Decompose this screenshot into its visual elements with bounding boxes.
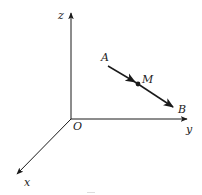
caption-fragment [85, 186, 97, 195]
y-axis-label: y [185, 123, 193, 136]
point-b-label: B [177, 103, 186, 116]
point-m-label: M [141, 73, 154, 86]
coordinate-diagram: z y x O A M B [0, 0, 202, 195]
origin-label: O [73, 120, 82, 133]
point-a-label: A [100, 51, 109, 64]
z-axis-label: z [57, 9, 64, 22]
x-axis-label: x [24, 176, 31, 189]
point-m-dot [136, 82, 141, 87]
segment-m-b [135, 82, 173, 107]
x-axis [17, 119, 71, 174]
segment-a-m [108, 66, 135, 82]
